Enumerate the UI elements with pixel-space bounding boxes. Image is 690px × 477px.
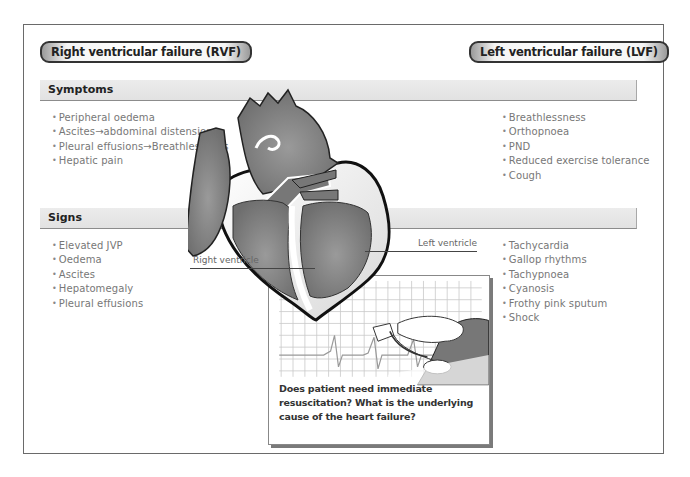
list-item: Orthopnoea <box>502 125 650 139</box>
list-item: Cough <box>502 169 650 183</box>
left-ventricle-label: Left ventricle <box>418 238 477 248</box>
list-item: Reduced exercise tolerance <box>502 154 650 168</box>
lvf-symptoms-list: Breathlessness Orthopnoea PND Reduced ex… <box>502 111 650 183</box>
list-item: Oedema <box>52 253 143 267</box>
list-item: Hepatomegaly <box>52 282 143 296</box>
symptoms-title: Symptoms <box>48 83 113 96</box>
left-ventricle-leader-line <box>365 251 477 252</box>
lvf-header: Left ventricular failure (LVF) <box>469 41 669 63</box>
list-item: Cyanosis <box>502 282 607 296</box>
lvf-signs-list: Tachycardia Gallop rhythms Tachypnoea Cy… <box>502 239 607 325</box>
list-item: Tachypnoea <box>502 268 607 282</box>
rvf-header: Right ventricular failure (RVF) <box>40 41 252 63</box>
right-ventricle-leader-line <box>190 268 315 269</box>
list-item: Tachycardia <box>502 239 607 253</box>
ecg-caption: Does patient need immediate resuscitatio… <box>279 382 489 424</box>
list-item: Frothy pink sputum <box>502 297 607 311</box>
signs-title: Signs <box>48 211 82 224</box>
list-item: Breathlessness <box>502 111 650 125</box>
heart-illustration <box>188 88 423 323</box>
list-item: Elevated JVP <box>52 239 143 253</box>
list-item: Pleural effusions <box>52 297 143 311</box>
list-item: Shock <box>502 311 607 325</box>
rvf-signs-list: Elevated JVP Oedema Ascites Hepatomegaly… <box>52 239 143 311</box>
list-item: Ascites <box>52 268 143 282</box>
list-item: Gallop rhythms <box>502 253 607 267</box>
right-ventricle-label: Right ventricle <box>193 255 259 265</box>
list-item: PND <box>502 140 650 154</box>
